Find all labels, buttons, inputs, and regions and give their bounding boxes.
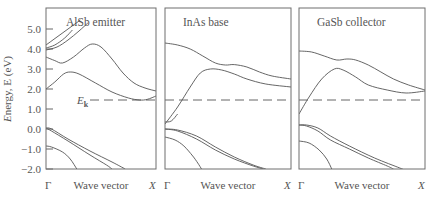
panel-gasb-collector: GaSb collectorΓXWave vector	[298, 8, 426, 191]
y-axis-label-unit: nergy, E (eV)	[1, 56, 14, 116]
band-vb-light-hole	[299, 125, 394, 169]
y-axis-ticks: 5.04.03.02.01.00.0−1.0−2.0	[21, 23, 53, 175]
y-axis-label-group: Energy, E (eV)	[1, 56, 14, 123]
band-vb-heavy-hole	[165, 129, 266, 169]
band-cb-second	[46, 44, 156, 91]
panel-frame	[299, 8, 425, 169]
y-axis-label: Energy, E (eV)	[1, 56, 14, 123]
band-cb-upper-3	[46, 30, 72, 48]
bands	[165, 43, 291, 169]
y-tick-label: 3.0	[27, 63, 41, 75]
x-label-x: X	[148, 179, 157, 191]
panel-alsb-emitter: AlSb emitterΓXWave vector	[45, 8, 157, 191]
x-label-gamma: Γ	[45, 179, 51, 191]
y-tick-label: 4.0	[27, 43, 41, 55]
bands	[299, 51, 425, 169]
ek-label-subscript: k	[84, 100, 89, 109]
x-axis-label: Wave vector	[335, 179, 390, 191]
panel-frame	[165, 8, 291, 169]
x-axis-label: Wave vector	[201, 179, 256, 191]
y-tick-label: 2.0	[27, 83, 41, 95]
y-tick-label: −2.0	[21, 163, 41, 175]
panels: AlSb emitterΓXWave vectorInAs baseΓXWave…	[45, 8, 426, 191]
band-cb-upper	[165, 43, 291, 79]
y-tick-label: 5.0	[27, 23, 41, 35]
y-tick-label: 0.0	[27, 123, 41, 135]
x-axis-label: Wave vector	[74, 179, 129, 191]
band-vb-split-off	[299, 141, 332, 169]
panel-inas-base: InAs baseΓXWave vector	[164, 8, 292, 191]
panel-title: InAs base	[183, 16, 229, 28]
panel-title: AlSb emitter	[66, 16, 125, 28]
band-cb-second	[165, 69, 291, 124]
x-label-x: X	[417, 179, 426, 191]
x-label-gamma: Γ	[164, 179, 170, 191]
band-vb-heavy-hole	[46, 128, 125, 169]
band-cb-second	[299, 68, 425, 114]
bands	[46, 20, 156, 169]
y-tick-label: −1.0	[21, 143, 41, 155]
band-vb-heavy-hole	[299, 125, 403, 169]
band-structure-chart: Energy, E (eV) 5.04.03.02.01.00.0−1.0−2.…	[0, 0, 434, 200]
panel-frame	[46, 8, 156, 169]
y-tick-label: 1.0	[27, 103, 41, 115]
panel-title: GaSb collector	[317, 16, 386, 28]
band-vb-split-off	[165, 137, 202, 169]
x-label-x: X	[283, 179, 292, 191]
ek-label: Ek	[76, 94, 89, 109]
x-label-gamma: Γ	[298, 179, 304, 191]
